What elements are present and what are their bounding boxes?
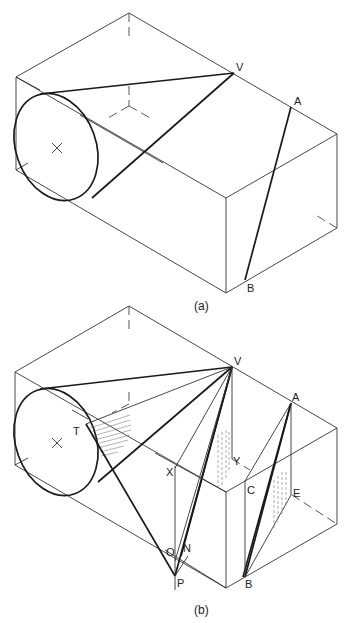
hatching-y bbox=[218, 430, 229, 488]
label-v-a: V bbox=[236, 61, 244, 73]
label-b-b: B bbox=[245, 578, 252, 590]
label-y-b: Y bbox=[233, 455, 241, 467]
line-tp bbox=[86, 424, 175, 576]
box-a-edges bbox=[16, 13, 337, 293]
label-v-b: V bbox=[234, 355, 242, 367]
label-b-a: B bbox=[247, 282, 254, 294]
label-a-a: A bbox=[294, 95, 302, 107]
label-p-b: P bbox=[177, 577, 184, 589]
caption-a: (a) bbox=[194, 299, 209, 313]
label-x-b: X bbox=[166, 466, 174, 478]
line-ab-a bbox=[245, 107, 291, 280]
box-b-edges bbox=[15, 306, 337, 588]
label-e-b: E bbox=[293, 487, 300, 499]
hidden-lines-a bbox=[80, 13, 337, 228]
figure-a: V A B (a) bbox=[0, 13, 337, 313]
diagram-canvas: V A B (a) bbox=[0, 0, 357, 623]
label-o-b: O bbox=[166, 546, 175, 558]
label-a-b: A bbox=[292, 391, 300, 403]
label-t-b: T bbox=[73, 425, 80, 437]
figure-b: V A T X Y C E O N P B (b) bbox=[0, 306, 337, 617]
label-c-b: C bbox=[247, 484, 255, 496]
caption-b: (b) bbox=[194, 603, 209, 617]
cone-a bbox=[0, 73, 234, 212]
label-n-b: N bbox=[183, 542, 191, 554]
